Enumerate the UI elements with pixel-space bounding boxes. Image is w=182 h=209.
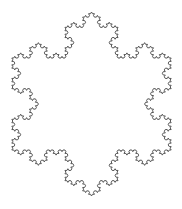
koch-snowflake-outline xyxy=(12,12,171,196)
koch-snowflake-figure xyxy=(0,0,182,209)
